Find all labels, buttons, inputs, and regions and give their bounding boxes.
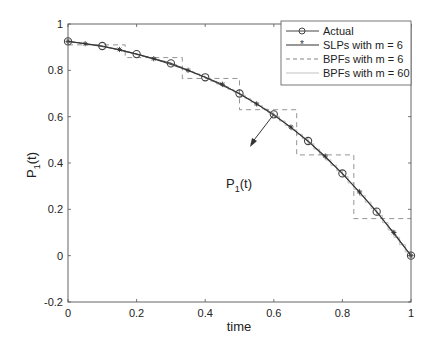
star-marker-icon <box>323 153 328 158</box>
chart: 00.20.40.60.81-0.200.20.40.60.81 time P1… <box>0 0 435 345</box>
svg-text:P1(t): P1(t) <box>226 176 252 194</box>
star-marker-icon <box>83 41 88 46</box>
y-tick-label: 0.2 <box>48 203 63 215</box>
y-tick-label: 0.8 <box>48 64 63 76</box>
x-tick-label: 0.6 <box>266 307 281 319</box>
star-marker-icon <box>117 47 122 52</box>
legend: Actual * SLPs with m = 6 BPFs with m = 6… <box>281 21 411 85</box>
x-tick-label: 1 <box>408 307 414 319</box>
x-tick-label: 0.8 <box>335 307 350 319</box>
svg-text:BPFs with m = 60: BPFs with m = 60 <box>323 67 410 79</box>
star-marker-icon <box>391 230 396 235</box>
x-axis-label: time <box>227 319 252 334</box>
x-tick-label: 0 <box>65 307 71 319</box>
star-marker-icon <box>288 124 293 129</box>
y-tick-label: 0 <box>57 250 63 262</box>
star-marker-icon <box>151 56 156 61</box>
svg-text:P1(t): P1(t) <box>24 152 42 178</box>
svg-text:SLPs with m = 6: SLPs with m = 6 <box>323 39 403 51</box>
y-tick-label: 1 <box>57 18 63 30</box>
star-marker-icon: * <box>300 39 304 50</box>
x-tick-label: 0.4 <box>198 307 213 319</box>
svg-text:Actual: Actual <box>323 25 354 37</box>
arrowhead-icon <box>250 138 257 147</box>
star-marker-icon <box>220 82 225 87</box>
star-marker-icon <box>357 189 362 194</box>
legend-item-slps-m6: * SLPs with m = 6 <box>286 39 403 51</box>
star-marker-icon <box>185 68 190 73</box>
svg-text:BPFs with m = 6: BPFs with m = 6 <box>323 53 403 65</box>
y-tick-label: 0.6 <box>48 111 63 123</box>
annotation-label: P1(t) <box>226 176 252 194</box>
y-tick-label: 0.4 <box>48 157 63 169</box>
x-tick-label: 0.2 <box>129 307 144 319</box>
y-tick-label: -0.2 <box>44 296 63 308</box>
y-axis-label: P1(t) <box>24 152 42 178</box>
